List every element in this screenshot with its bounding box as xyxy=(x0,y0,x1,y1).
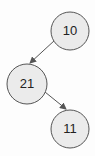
node-21-label: 21 xyxy=(7,74,47,94)
edge-21-to-11 xyxy=(45,92,66,109)
node-11-label: 11 xyxy=(50,119,90,139)
node-10-label: 10 xyxy=(50,21,90,41)
edge-10-to-21 xyxy=(30,40,55,63)
